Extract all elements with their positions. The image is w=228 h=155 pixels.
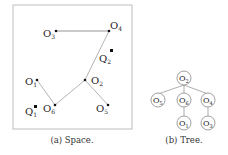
point-o5 bbox=[107, 104, 110, 107]
space-panel: O3 O4 Q2 O1 O2 Q1 O6 O5 (a) Space. bbox=[13, 5, 132, 145]
tree-node-o2: O2 bbox=[177, 71, 191, 85]
tree-caption: (b) Tree. bbox=[165, 135, 202, 145]
tree-node-o1: O1 bbox=[177, 116, 191, 130]
tree-edge-o2-o5 bbox=[158, 85, 184, 94]
tree-node-o5: O5 bbox=[151, 93, 165, 107]
point-o3 bbox=[55, 30, 58, 33]
tree-node-o6: O6 bbox=[177, 93, 191, 107]
tree-node-o3: O3 bbox=[201, 116, 215, 130]
point-q2 bbox=[110, 49, 113, 52]
point-o2 bbox=[84, 79, 87, 82]
point-o6 bbox=[54, 104, 57, 107]
tree-node-o4: O4 bbox=[201, 93, 215, 107]
figure: O3 O4 Q2 O1 O2 Q1 O6 O5 (a) Space. O2 bbox=[0, 0, 228, 155]
space-caption: (a) Space. bbox=[50, 135, 93, 145]
tree-edge-o2-o4 bbox=[184, 85, 208, 94]
tree-panel: O2 O5 O6 O4 O1 O3 (b) Tree. bbox=[151, 71, 215, 145]
point-q1 bbox=[34, 105, 37, 108]
